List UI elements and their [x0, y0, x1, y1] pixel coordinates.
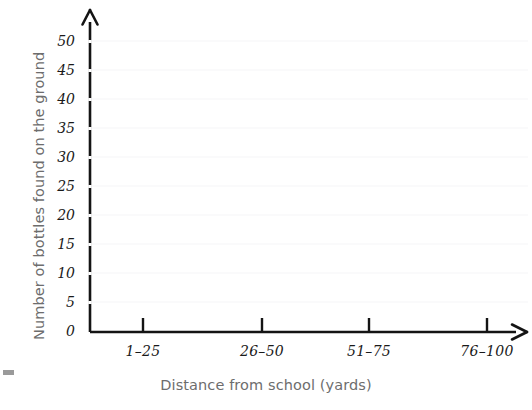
x-axis-title: Distance from school (yards) — [0, 377, 532, 393]
x-tick-label: 1–25 — [126, 342, 161, 360]
x-tick-label: 51–75 — [347, 342, 391, 360]
chart-container: 50 45 40 35 30 25 20 15 10 5 0 1–25 26–5… — [0, 0, 532, 410]
gridlines-group — [90, 41, 528, 302]
corner-mark — [3, 370, 14, 375]
x-axis-ticks — [143, 318, 487, 332]
y-axis-title: Number of bottles found on the ground — [26, 20, 52, 340]
x-tick-label: 76–100 — [460, 342, 513, 360]
x-tick-label: 26–50 — [240, 342, 284, 360]
